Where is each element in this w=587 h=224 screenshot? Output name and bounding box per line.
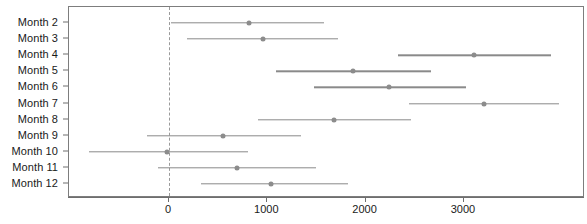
y-axis-label-word: Month bbox=[18, 80, 49, 92]
forest-row bbox=[69, 47, 583, 63]
x-axis-tick bbox=[266, 197, 267, 202]
estimate-point bbox=[332, 117, 337, 122]
y-axis-label-number: 5 bbox=[52, 64, 58, 76]
y-axis-tick bbox=[63, 134, 68, 135]
y-axis-label: Month4 bbox=[18, 48, 58, 60]
estimate-point bbox=[387, 85, 392, 90]
y-axis-label-number: 9 bbox=[52, 129, 58, 141]
y-axis-tick bbox=[63, 150, 68, 151]
y-axis-tick bbox=[63, 54, 68, 55]
y-axis-tick bbox=[63, 166, 68, 167]
estimate-point bbox=[165, 149, 170, 154]
y-axis-label-word: Month bbox=[11, 177, 42, 189]
y-axis-label-number: 10 bbox=[46, 145, 58, 157]
y-axis-label-number: 12 bbox=[46, 177, 58, 189]
y-axis-label-number: 3 bbox=[52, 32, 58, 44]
estimate-point bbox=[260, 37, 265, 42]
y-axis-tick bbox=[63, 102, 68, 103]
y-axis-label-word: Month bbox=[12, 161, 43, 173]
y-axis-label-number: 8 bbox=[52, 113, 58, 125]
y-axis-tick bbox=[63, 70, 68, 71]
y-axis-tick bbox=[63, 38, 68, 39]
forest-row bbox=[69, 112, 583, 128]
forest-row bbox=[69, 96, 583, 112]
estimate-point bbox=[481, 101, 486, 106]
y-axis-label-number: 6 bbox=[52, 80, 58, 92]
y-axis-label-number: 11 bbox=[46, 161, 58, 173]
x-axis-tick-label: 1000 bbox=[254, 203, 278, 215]
y-axis-label: Month10 bbox=[11, 145, 58, 157]
y-axis-label: Month6 bbox=[18, 80, 58, 92]
x-axis-tick-label: 0 bbox=[165, 203, 171, 215]
x-axis-tick-label: 2000 bbox=[352, 203, 376, 215]
y-axis-label: Month7 bbox=[18, 97, 58, 109]
estimate-point bbox=[234, 165, 239, 170]
y-axis-label: Month11 bbox=[12, 161, 58, 173]
forest-row bbox=[69, 31, 583, 47]
y-axis-label-word: Month bbox=[18, 16, 49, 28]
y-axis-label-number: 2 bbox=[52, 16, 58, 28]
x-axis-line bbox=[68, 197, 584, 198]
forest-row bbox=[69, 63, 583, 79]
forest-row bbox=[69, 79, 583, 95]
plot-area bbox=[69, 7, 583, 196]
y-axis-tick bbox=[63, 118, 68, 119]
estimate-point bbox=[221, 133, 226, 138]
y-axis-tick bbox=[63, 86, 68, 87]
y-axis-label-word: Month bbox=[18, 64, 49, 76]
plot-panel bbox=[68, 6, 584, 197]
x-axis-tick bbox=[168, 197, 169, 202]
y-axis-label-word: Month bbox=[11, 145, 42, 157]
x-axis-tick-label: 3000 bbox=[451, 203, 475, 215]
y-axis-label: Month8 bbox=[18, 113, 58, 125]
forest-row bbox=[69, 15, 583, 31]
forest-row bbox=[69, 176, 583, 192]
y-axis-label-word: Month bbox=[18, 48, 49, 60]
estimate-point bbox=[350, 69, 355, 74]
y-axis-label-word: Month bbox=[18, 113, 49, 125]
forest-row bbox=[69, 144, 583, 160]
y-axis-label-word: Month bbox=[18, 32, 49, 44]
y-axis-label-word: Month bbox=[18, 97, 49, 109]
y-axis-labels: Month2Month3Month4Month5Month6Month7Mont… bbox=[0, 0, 68, 224]
x-axis-tick bbox=[463, 197, 464, 202]
y-axis-label-number: 7 bbox=[52, 97, 58, 109]
estimate-point bbox=[471, 53, 476, 58]
estimate-point bbox=[268, 182, 273, 187]
confidence-interval-line bbox=[201, 183, 348, 184]
y-axis-tick bbox=[63, 183, 68, 184]
y-axis-label-word: Month bbox=[18, 129, 49, 141]
forest-row bbox=[69, 160, 583, 176]
forest-row bbox=[69, 128, 583, 144]
y-axis-label: Month3 bbox=[18, 32, 58, 44]
y-axis-label: Month12 bbox=[11, 177, 58, 189]
estimate-point bbox=[247, 21, 252, 26]
y-axis-label: Month2 bbox=[18, 16, 58, 28]
y-axis-tick bbox=[63, 22, 68, 23]
y-axis-label-number: 4 bbox=[52, 48, 58, 60]
y-axis-label: Month5 bbox=[18, 64, 58, 76]
x-axis-tick bbox=[365, 197, 366, 202]
forest-plot: Month2Month3Month4Month5Month6Month7Mont… bbox=[0, 0, 587, 224]
y-axis-label: Month9 bbox=[18, 129, 58, 141]
